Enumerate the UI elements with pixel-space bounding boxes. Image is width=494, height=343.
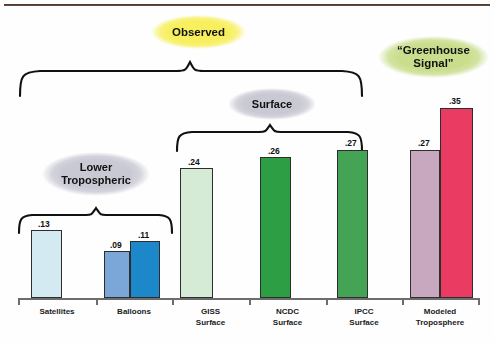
annotation-surface: Surface: [228, 88, 316, 120]
x-axis-label-ncdc-surface: NCDC Surface: [249, 307, 326, 328]
bar-value-giss-surface-024: .24: [188, 157, 200, 167]
bar-balloons-009[interactable]: [104, 251, 130, 298]
annotation-lower-tropospheric: Lower Tropospheric: [42, 152, 150, 196]
bar-satellites-013[interactable]: [31, 230, 62, 298]
x-axis-label-satellites: Satellites: [18, 307, 96, 318]
annotation-greenhouse-signal-label: “Greenhouse Signal”: [397, 44, 470, 70]
bar-balloons-011[interactable]: [130, 241, 160, 298]
annotation-lower-tropospheric-label: Lower Tropospheric: [61, 161, 131, 187]
annotation-observed-label: Observed: [172, 26, 225, 38]
bar-ipcc-surface-027[interactable]: [337, 150, 368, 298]
bar-value-modeled-troposphere-027: .27: [418, 138, 430, 148]
x-axis-tick-1: [96, 298, 98, 305]
annotation-greenhouse-signal: “Greenhouse Signal”: [378, 36, 489, 78]
plot-area: Observed “Greenhouse Signal” Surface Low…: [0, 0, 494, 343]
x-axis-tick-6: [478, 298, 480, 305]
bar-ncdc-surface-026[interactable]: [260, 157, 291, 298]
x-axis-tick-0: [18, 298, 20, 305]
bar-value-satellites-013: .13: [38, 219, 50, 229]
bar-value-ipcc-surface-027: .27: [345, 138, 357, 148]
x-axis-tick-5: [402, 298, 404, 305]
x-axis-label-giss-surface: GISS Surface: [172, 307, 249, 328]
x-axis-tick-2: [172, 298, 174, 305]
bar-value-balloons-011: .11: [138, 230, 149, 240]
x-axis-tick-3: [249, 298, 251, 305]
bar-value-ncdc-surface-026: .26: [268, 146, 280, 156]
chart-figure: Observed “Greenhouse Signal” Surface Low…: [0, 0, 494, 343]
bar-modeled-troposphere-035[interactable]: [440, 108, 473, 298]
x-axis-tick-4: [326, 298, 328, 305]
observed-brace: [20, 62, 362, 96]
x-axis-label-modeled-troposphere: Modeled Troposphere: [402, 307, 478, 328]
bar-value-modeled-troposphere-035: .35: [449, 96, 461, 106]
bar-modeled-troposphere-027[interactable]: [410, 150, 440, 298]
bar-giss-surface-024[interactable]: [180, 168, 213, 298]
annotation-observed: Observed: [151, 15, 246, 49]
bar-value-balloons-009: .09: [110, 240, 122, 250]
annotation-surface-label: Surface: [252, 98, 292, 110]
x-axis-label-balloons: Balloons: [96, 307, 172, 318]
x-axis-label-ipcc-surface: IPCC Surface: [326, 307, 402, 328]
